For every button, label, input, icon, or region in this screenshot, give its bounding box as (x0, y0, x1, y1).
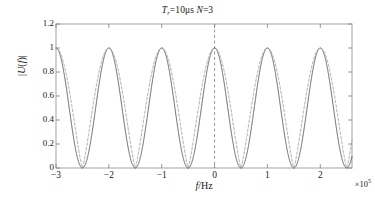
chart-figure: Tr=10μs N=3 |U(f)| f/Hz ×105 00.20.40.60… (0, 0, 375, 201)
plot-canvas (0, 0, 375, 201)
series-dashed-curve (56, 48, 352, 168)
